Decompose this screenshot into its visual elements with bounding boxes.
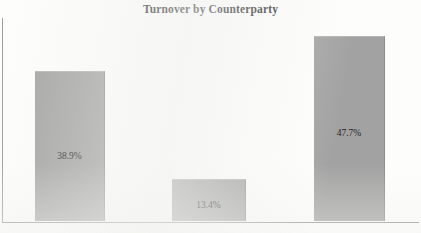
x-axis-line: [2, 222, 419, 224]
bar-1[interactable]: 38.9%: [35, 71, 105, 221]
bar-1-value-label: 38.9%: [35, 151, 104, 161]
bar-3-value-label: 47.7%: [314, 128, 384, 138]
y-axis-line: [2, 18, 3, 223]
bar-2[interactable]: 13.4%: [172, 179, 246, 221]
bar-3[interactable]: 47.7%: [314, 36, 385, 221]
bar-chart-figure: Turnover by Counterparty 38.9% 13.4% 47.…: [0, 0, 421, 233]
bar-2-value-label: 13.4%: [172, 200, 245, 210]
plot-area: 38.9% 13.4% 47.7%: [2, 18, 419, 223]
chart-title: Turnover by Counterparty: [0, 3, 421, 15]
